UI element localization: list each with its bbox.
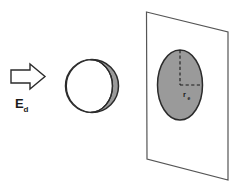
figure-container: E d r e (0, 0, 237, 190)
diagram-canvas: E d r e (0, 0, 237, 190)
sphere-group (66, 60, 119, 113)
projected-disc-group: r e (158, 50, 203, 120)
radius-label-main: r (183, 90, 186, 99)
radius-label-subscript: e (188, 95, 191, 101)
arrow-label-subscript: d (24, 105, 29, 114)
